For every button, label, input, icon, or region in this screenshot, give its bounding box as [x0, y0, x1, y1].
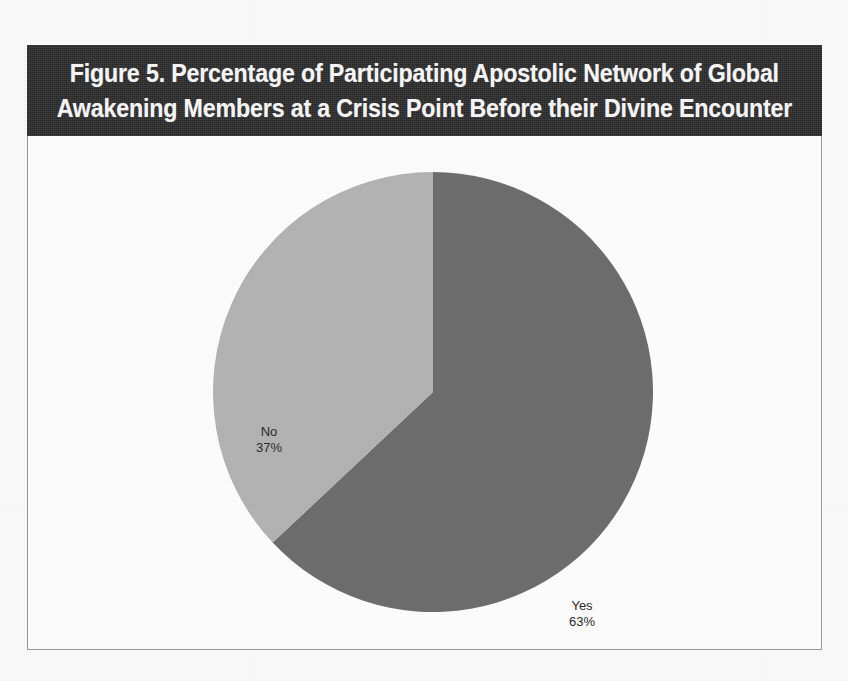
pie-label-no: No 37%	[256, 424, 282, 456]
pie-label-yes-name: Yes	[569, 598, 595, 614]
pie-label-no-value: 37%	[256, 440, 282, 456]
pie-label-yes: Yes 63%	[569, 598, 595, 630]
chart-plot-area: No 37% Yes 63%	[28, 136, 821, 649]
pie-label-yes-value: 63%	[569, 614, 595, 630]
figure-title-line-1: Figure 5. Percentage of Participating Ap…	[70, 56, 779, 91]
figure-title-banner: Figure 5. Percentage of Participating Ap…	[27, 45, 822, 136]
pie-label-no-name: No	[256, 424, 282, 440]
pie-chart-svg	[213, 172, 653, 612]
pie-chart	[213, 172, 653, 612]
figure-title-line-2: Awakening Members at a Crisis Point Befo…	[57, 91, 793, 126]
scanned-page: Figure 5. Percentage of Participating Ap…	[0, 0, 848, 681]
